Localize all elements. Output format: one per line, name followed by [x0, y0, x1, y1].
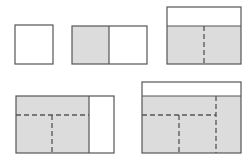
shape-rect-right-strip [16, 96, 114, 153]
shape-rect-top-strip [167, 7, 241, 64]
shape-rect-top-strip-large [142, 82, 241, 153]
shape-rect-two-part [72, 26, 147, 64]
shape-square [15, 25, 53, 64]
area-model-diagram [0, 0, 251, 164]
shaded-region [72, 26, 109, 64]
shape-background [15, 25, 53, 64]
shaded-region [142, 96, 241, 153]
